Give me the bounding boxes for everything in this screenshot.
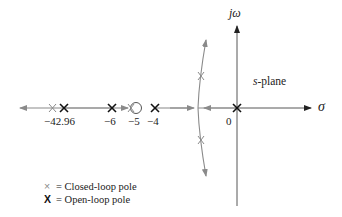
zero-marker [131, 103, 142, 114]
tick-label-m4: −4 [147, 116, 159, 127]
imag-axis-label: jω [229, 7, 241, 19]
tick-label-m5: −5 [128, 116, 140, 127]
open-loop-pole-icon: X [44, 194, 56, 205]
closed-loop-pole-icon: × [44, 181, 56, 192]
tick-label-m6: −6 [104, 116, 116, 127]
legend-closed-loop: ×= Closed-loop pole [44, 181, 137, 193]
closed-loop-label: = Closed-loop pole [56, 181, 137, 192]
plane-label-rest: -plane [257, 75, 286, 87]
real-axis-label: σ [318, 100, 325, 114]
tick-label-0: 0 [226, 116, 232, 127]
plane-label: s-plane [253, 76, 286, 88]
tick-label-m42-96: −42.96 [44, 116, 75, 127]
open-loop-label: = Open-loop pole [56, 194, 130, 205]
legend-open-loop: X= Open-loop pole [44, 194, 130, 206]
